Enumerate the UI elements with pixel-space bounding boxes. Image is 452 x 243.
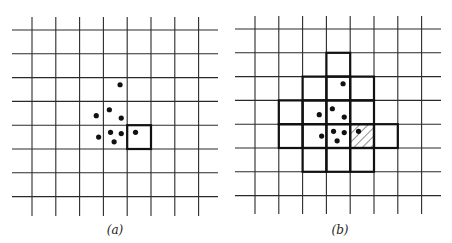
- figure: (a) (b): [0, 0, 452, 243]
- data-point: [117, 82, 122, 87]
- panel-a: [12, 17, 218, 216]
- data-point: [94, 113, 99, 118]
- data-point: [112, 139, 117, 144]
- highlighted-cell: [127, 125, 151, 149]
- data-point: [356, 129, 361, 134]
- data-point: [317, 112, 322, 117]
- highlighted-cell: [279, 124, 303, 148]
- caption-a: (a): [107, 223, 124, 237]
- data-point: [133, 130, 138, 135]
- highlighted-cell: [326, 148, 350, 172]
- data-point: [119, 131, 124, 136]
- data-point: [342, 114, 347, 119]
- highlighted-cell: [350, 77, 374, 101]
- highlighted-cell: [279, 100, 303, 124]
- data-point: [107, 107, 112, 112]
- highlighted-cell: [350, 100, 374, 124]
- data-point: [96, 135, 101, 140]
- data-point: [342, 130, 347, 135]
- highlighted-cell: [374, 124, 398, 148]
- highlighted-cell: [326, 53, 350, 77]
- panel-b: [235, 16, 441, 214]
- highlighted-cell: [303, 100, 327, 124]
- data-point: [319, 134, 324, 139]
- caption-b: (b): [331, 223, 348, 237]
- data-point: [335, 138, 340, 143]
- highlighted-cell: [326, 77, 350, 101]
- highlighted-cell: [350, 148, 374, 172]
- hatched-cell: [350, 124, 374, 148]
- highlighted-cell: [326, 124, 350, 148]
- highlighted-cell: [303, 77, 327, 101]
- highlighted-cell: [303, 148, 327, 172]
- data-point: [119, 115, 124, 120]
- data-point: [108, 130, 113, 135]
- data-point: [340, 81, 345, 86]
- data-point: [331, 129, 336, 134]
- data-point: [330, 106, 335, 111]
- highlighted-cell: [326, 100, 350, 124]
